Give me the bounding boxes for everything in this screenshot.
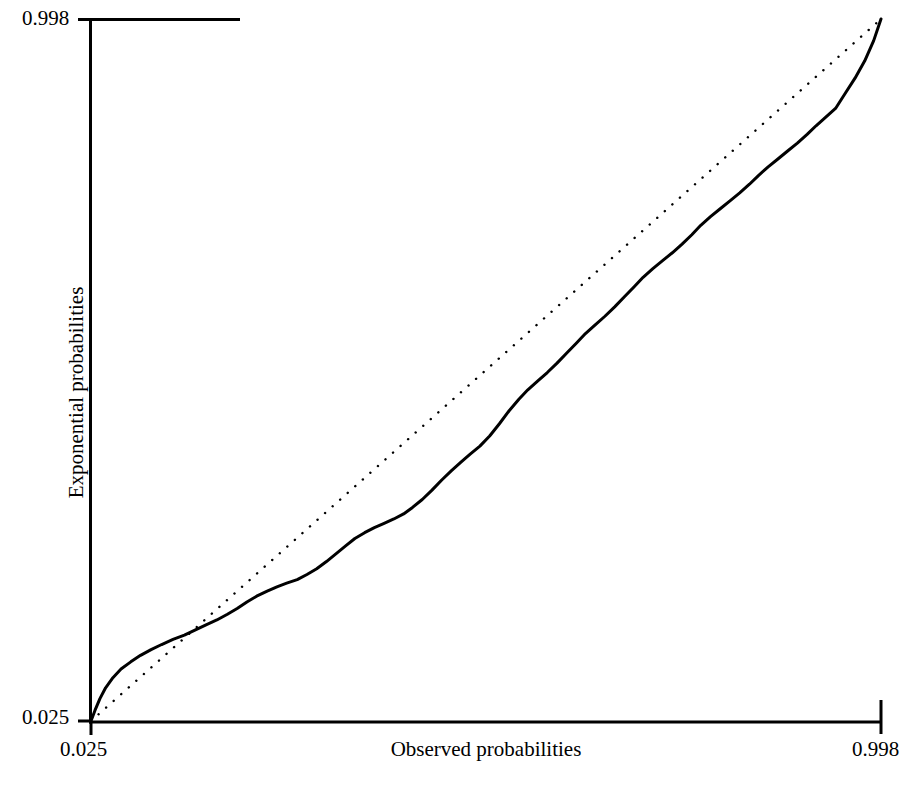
qq-plot-figure: 0.998 0.025 0.025 0.998 Observed probabi… <box>0 0 919 785</box>
y-axis-max-tick-label: 0.998 <box>22 8 69 29</box>
reference-line <box>91 19 881 721</box>
reference-line-path <box>91 19 881 721</box>
plot-canvas <box>0 0 919 785</box>
x-axis-title: Observed probabilities <box>90 739 882 760</box>
y-axis-min-tick-label: 0.025 <box>22 707 69 728</box>
